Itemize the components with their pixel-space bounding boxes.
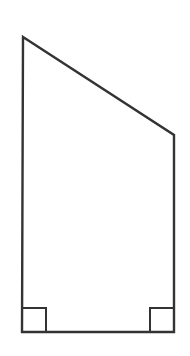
trapezoid-figure-svg (0, 0, 190, 356)
right-angle-marker-bottom-left (22, 308, 46, 332)
right-angle-marker-bottom-right (150, 308, 174, 332)
trapezoid-outline (22, 37, 174, 332)
geometry-figure (0, 0, 190, 356)
